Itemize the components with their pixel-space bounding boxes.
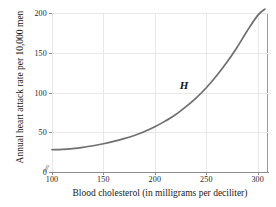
x-axis-title: Blood cholesterol (in milligrams per dec… bbox=[52, 188, 268, 198]
data-curve bbox=[0, 0, 276, 207]
curve-path-H bbox=[52, 9, 265, 150]
y-axis-title: Annual heart attack rate per 10,000 men bbox=[15, 1, 25, 173]
chart-figure: 100150200250300 050100150200 // H Blood … bbox=[0, 0, 276, 207]
curve-label-H: H bbox=[180, 79, 189, 91]
